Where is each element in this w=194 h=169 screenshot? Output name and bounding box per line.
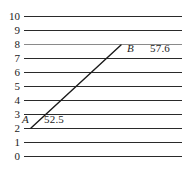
gridline-0: [24, 156, 182, 157]
ytick-label-10: 10: [0, 11, 20, 22]
gridline-1: [24, 142, 182, 143]
gridline-9: [24, 30, 182, 31]
gridline-10: [24, 16, 182, 17]
point-a-value: 52.5: [44, 114, 64, 125]
ytick-label-8: 8: [0, 39, 20, 50]
chart-figure: 10 9 8 7 6 5 4 3 2 1 0 A 52.5 B 57.6: [0, 0, 194, 169]
ytick-label-5: 5: [0, 81, 20, 92]
gridline-4: [24, 100, 182, 101]
ytick-label-0: 0: [0, 151, 20, 162]
gridline-2: [24, 128, 182, 129]
ytick-label-1: 1: [0, 137, 20, 148]
ytick-label-4: 4: [0, 95, 20, 106]
gridline-6: [24, 72, 182, 73]
gridline-5: [24, 86, 182, 87]
ytick-label-2: 2: [0, 123, 20, 134]
point-b-label: B: [127, 43, 134, 54]
segment-ab: [0, 0, 194, 169]
ytick-label-7: 7: [0, 53, 20, 64]
point-b-value: 57.6: [150, 43, 170, 54]
point-a-label: A: [22, 114, 29, 125]
ytick-label-3: 3: [0, 109, 20, 120]
ytick-label-9: 9: [0, 25, 20, 36]
gridline-7: [24, 58, 182, 59]
ytick-label-6: 6: [0, 67, 20, 78]
